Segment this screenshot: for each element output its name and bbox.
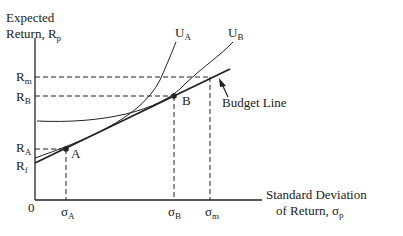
arrow-head-icon xyxy=(219,78,226,87)
point-a xyxy=(63,146,69,152)
sigma-m-label: σm xyxy=(205,204,219,221)
y-axis-label: Expected xyxy=(6,10,55,25)
sigma-a-label: σA xyxy=(61,204,75,221)
sigma-b-label: σB xyxy=(168,204,181,221)
ub-label: UB xyxy=(228,25,243,42)
rb-label: RB xyxy=(16,89,31,106)
point-b xyxy=(171,93,177,99)
x-axis-label: Standard Deviation xyxy=(266,187,367,202)
ua-label: UA xyxy=(175,25,191,42)
rf-label: Rf xyxy=(16,158,28,175)
origin-label: 0 xyxy=(28,200,35,215)
svg-text:of Return, σp: of Return, σp xyxy=(276,203,344,220)
indifference-curve-a xyxy=(35,42,176,158)
rm-label: Rm xyxy=(16,69,32,86)
svg-text:Expected: Expected xyxy=(6,10,55,25)
point-b-label: B xyxy=(182,93,191,108)
portfolio-diagram: Expected Return, Rp Rm RB RA Rf 0 σA σB … xyxy=(0,0,403,236)
point-a-label: A xyxy=(71,146,81,161)
svg-text:Return, Rp: Return, Rp xyxy=(6,26,62,43)
budget-line-label: Budget Line xyxy=(222,95,287,110)
ra-label: RA xyxy=(16,140,32,157)
